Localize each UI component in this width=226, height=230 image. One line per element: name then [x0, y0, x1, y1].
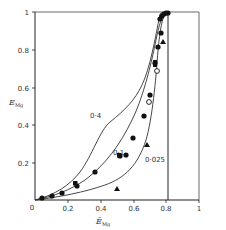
x-tick-label-0.2: 0.2 [62, 205, 73, 213]
chart-canvas: 1 0.8 0.6 0.4 0.2 0 0.2 0.4 0.6 0.8 1 E … [0, 0, 226, 230]
y-tick-label-1: 1 [25, 9, 29, 17]
x-tick-label-0.6: 0.6 [128, 205, 140, 213]
x-tick-label-1: 1 [197, 205, 201, 213]
y-tick-label-0.8: 0.8 [18, 47, 29, 55]
plot-frame [35, 12, 199, 200]
curve-label-0.4: 0·4 [90, 112, 102, 120]
x-axis-label: Ē Mg [95, 217, 111, 228]
x-tick-label-0.8: 0.8 [160, 205, 171, 213]
markers-filled-triangles [114, 39, 166, 191]
y-axis-label: E Mg [8, 98, 24, 109]
curve-0.1 [35, 12, 166, 200]
curve-label-0.025: 0·025 [145, 156, 165, 164]
y-tick-label-0.4: 0.4 [18, 122, 30, 130]
origin-label: 0 [30, 204, 34, 212]
curves [35, 12, 166, 200]
x-tick-label-0.4: 0.4 [95, 205, 107, 213]
svg-text:Mg: Mg [15, 102, 24, 109]
svg-text:E: E [8, 98, 15, 107]
svg-text:Ē: Ē [95, 217, 102, 226]
y-tick-label-0.6: 0.6 [18, 85, 30, 93]
markers-filled-circles [39, 10, 170, 200]
curve-0.4 [35, 12, 163, 200]
y-tick-label-0.2: 0.2 [18, 160, 29, 168]
svg-text:Mg: Mg [102, 221, 111, 228]
curve-0.025 [35, 12, 166, 200]
